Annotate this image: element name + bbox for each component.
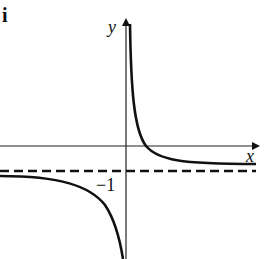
y-axis-label: y — [106, 17, 116, 37]
x-axis-label: x — [245, 146, 254, 166]
curve-right-branch — [130, 24, 256, 164]
graph: i y x −1 — [0, 0, 265, 259]
asymptote-label: −1 — [96, 175, 115, 195]
panel-label: i — [2, 4, 8, 26]
